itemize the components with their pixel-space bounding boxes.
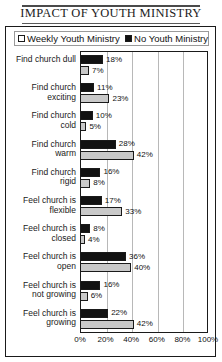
bars: 16%6% bbox=[80, 281, 208, 303]
category-label: Find church cold bbox=[14, 111, 76, 130]
bars: 18%7% bbox=[80, 55, 208, 77]
bar-value-label: 6% bbox=[91, 291, 103, 301]
x-axis: 0%20%40%60%80%100% bbox=[80, 335, 208, 349]
chart-frame: Weekly Youth Ministry No Youth Ministry … bbox=[5, 26, 216, 357]
bar-no-youth-ministry bbox=[80, 196, 102, 205]
bar-value-label: 4% bbox=[88, 235, 100, 245]
bar-value-label: 18% bbox=[106, 55, 122, 65]
bar-no-youth-ministry bbox=[80, 140, 116, 149]
bar-wrap: 28% bbox=[80, 140, 208, 149]
bar-weekly-youth-ministry bbox=[80, 179, 90, 188]
bar-wrap: 42% bbox=[80, 320, 208, 329]
category-label: Find church dull bbox=[14, 55, 76, 65]
bar-weekly-youth-ministry bbox=[80, 94, 109, 103]
bar-value-label: 42% bbox=[137, 150, 153, 160]
bar-wrap: 33% bbox=[80, 207, 208, 216]
category-label: Feel church is growing bbox=[14, 309, 76, 328]
x-tick-label: 0% bbox=[74, 335, 86, 344]
bar-value-label: 28% bbox=[119, 139, 135, 149]
bar-value-label: 16% bbox=[103, 167, 119, 177]
bar-wrap: 8% bbox=[80, 179, 208, 188]
bar-wrap: 18% bbox=[80, 55, 208, 64]
bars: 22%42% bbox=[80, 309, 208, 331]
bar-group: Feel church is flexible17%33% bbox=[14, 192, 210, 220]
bar-value-label: 22% bbox=[111, 308, 127, 318]
bar-wrap: 22% bbox=[80, 309, 208, 318]
category-label: Find church exciting bbox=[14, 83, 76, 102]
bar-wrap: 23% bbox=[80, 94, 208, 103]
bar-value-label: 5% bbox=[89, 122, 101, 132]
category-label: Find church warm bbox=[14, 140, 76, 159]
bars: 10%5% bbox=[80, 111, 208, 133]
legend-item-weekly-youth-ministry: Weekly Youth Ministry bbox=[18, 33, 120, 44]
bar-value-label: 11% bbox=[97, 83, 112, 93]
bar-group: Find church dull18%7% bbox=[14, 51, 210, 79]
bar-wrap: 17% bbox=[80, 196, 208, 205]
bar-weekly-youth-ministry bbox=[80, 235, 85, 244]
bar-wrap: 8% bbox=[80, 224, 208, 233]
legend-item-no-youth-ministry: No Youth Ministry bbox=[125, 33, 208, 44]
title-block: IMPACT OF YOUTH MINISTRY bbox=[0, 0, 222, 26]
bar-value-label: 42% bbox=[137, 319, 153, 329]
page-title: IMPACT OF YOUTH MINISTRY bbox=[0, 6, 222, 21]
filled-square-icon bbox=[125, 35, 132, 42]
bar-group: Feel church is not growing16%6% bbox=[14, 277, 210, 305]
bar-value-label: 17% bbox=[105, 196, 121, 206]
title-rule-bottom bbox=[22, 23, 200, 24]
bar-value-label: 10% bbox=[96, 111, 112, 121]
category-label: Feel church is not growing bbox=[14, 281, 76, 300]
bar-group: Find church rigid16%8% bbox=[14, 164, 210, 192]
category-label: Feel church is closed bbox=[14, 224, 76, 243]
x-tick-label: 80% bbox=[174, 335, 190, 344]
bar-wrap: 11% bbox=[80, 83, 208, 92]
bar-value-label: 7% bbox=[92, 66, 104, 76]
category-label: Feel church is flexible bbox=[14, 196, 76, 215]
bar-weekly-youth-ministry bbox=[80, 66, 89, 75]
bar-wrap: 40% bbox=[80, 263, 208, 272]
bar-no-youth-ministry bbox=[80, 55, 103, 64]
category-label: Find church rigid bbox=[14, 168, 76, 187]
bars: 8%4% bbox=[80, 224, 208, 246]
bar-wrap: 36% bbox=[80, 252, 208, 261]
legend-label-weekly-youth-ministry: Weekly Youth Ministry bbox=[27, 33, 120, 44]
x-tick-label: 60% bbox=[149, 335, 165, 344]
bar-no-youth-ministry bbox=[80, 111, 93, 120]
bars: 11%23% bbox=[80, 83, 208, 105]
bar-group: Feel church is open36%40% bbox=[14, 248, 210, 276]
chart-legend: Weekly Youth Ministry No Youth Ministry bbox=[14, 31, 209, 46]
plot-area: Find church dull18%7%Find church excitin… bbox=[14, 51, 210, 333]
bar-wrap: 42% bbox=[80, 151, 208, 160]
bar-value-label: 36% bbox=[129, 252, 145, 262]
x-tick-label: 20% bbox=[98, 335, 114, 344]
bar-group: Find church exciting11%23% bbox=[14, 79, 210, 107]
bar-value-label: 16% bbox=[103, 280, 119, 290]
bar-no-youth-ministry bbox=[80, 224, 90, 233]
bar-group: Feel church is growing22%42% bbox=[14, 305, 210, 333]
bar-wrap: 7% bbox=[80, 66, 208, 75]
bar-group: Find church warm28%42% bbox=[14, 136, 210, 164]
bar-value-label: 8% bbox=[93, 178, 105, 188]
bars: 36%40% bbox=[80, 252, 208, 274]
bar-wrap: 5% bbox=[80, 122, 208, 131]
bar-value-label: 8% bbox=[93, 224, 105, 234]
bar-weekly-youth-ministry bbox=[80, 292, 88, 301]
bars: 17%33% bbox=[80, 196, 208, 218]
x-tick-label: 100% bbox=[198, 335, 218, 344]
bar-value-label: 33% bbox=[125, 207, 141, 217]
legend-label-no-youth-ministry: No Youth Ministry bbox=[134, 33, 208, 44]
bar-no-youth-ministry bbox=[80, 83, 94, 92]
bar-no-youth-ministry bbox=[80, 309, 108, 318]
bar-value-label: 40% bbox=[134, 263, 150, 273]
bar-rows: Find church dull18%7%Find church excitin… bbox=[14, 51, 210, 333]
bar-no-youth-ministry bbox=[80, 168, 100, 177]
bar-value-label: 23% bbox=[112, 94, 128, 104]
bars: 28%42% bbox=[80, 140, 208, 162]
open-square-icon bbox=[18, 35, 25, 42]
bar-group: Feel church is closed8%4% bbox=[14, 220, 210, 248]
bar-wrap: 16% bbox=[80, 281, 208, 290]
x-tick-label: 40% bbox=[123, 335, 139, 344]
bar-wrap: 10% bbox=[80, 111, 208, 120]
bar-no-youth-ministry bbox=[80, 252, 126, 261]
bar-wrap: 6% bbox=[80, 292, 208, 301]
bar-group: Find church cold10%5% bbox=[14, 107, 210, 135]
